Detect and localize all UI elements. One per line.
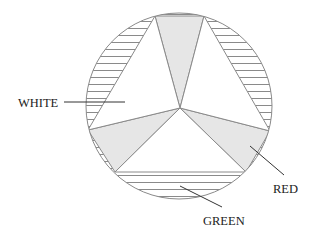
label-red: RED <box>273 182 298 196</box>
label-green: GREEN <box>203 214 245 228</box>
flag-diagram: WHITE RED GREEN <box>0 0 315 236</box>
red-leader-line <box>250 146 284 175</box>
label-white: WHITE <box>18 96 59 110</box>
